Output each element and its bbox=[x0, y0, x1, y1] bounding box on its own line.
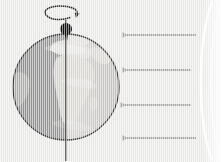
rotation-arrow-icon bbox=[45, 6, 77, 20]
diagram-canvas: Earth rotation and sunlight illumination… bbox=[0, 0, 220, 162]
rotation-direction-indicator bbox=[45, 6, 77, 20]
sunlight-rays-group bbox=[120, 35, 196, 138]
sun-limb-group bbox=[196, 0, 221, 162]
diagram-svg bbox=[0, 0, 220, 162]
